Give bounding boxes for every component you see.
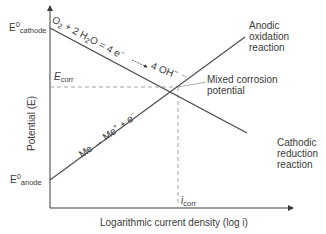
- oh-leader: [182, 75, 187, 77]
- equation-arrow: [132, 60, 147, 67]
- y-axis-label: Potential (E): [26, 84, 37, 164]
- e-anode-sub: anode: [21, 178, 42, 187]
- x-axis-label: Logarithmic current density (log i): [100, 217, 248, 228]
- e-cathode-symbol: E: [9, 22, 16, 33]
- e-cathode-marker: E0cathode: [9, 19, 47, 36]
- anodic-label-line-2: oxidation: [249, 31, 289, 42]
- anodic-line: [50, 37, 245, 180]
- mixed-label-line-2: potential: [207, 85, 278, 96]
- mixed-potential-label: Mixed corrosion potential: [207, 74, 278, 96]
- cathodic-label-line-3: reaction: [277, 159, 318, 170]
- e-cathode-sub: cathode: [20, 26, 47, 35]
- cathodic-label: Cathodic reduction reaction: [277, 137, 318, 170]
- e-anode-symbol: E: [10, 174, 17, 185]
- anodic-label-line-1: Anodic: [249, 20, 289, 31]
- anodic-label-line-3: reaction: [249, 42, 289, 53]
- e-corr-marker: Ecorr: [54, 71, 74, 85]
- e-corr-symbol: E: [54, 71, 61, 82]
- mixed-label-line-1: Mixed corrosion: [207, 74, 278, 85]
- e-corr-sub: corr: [61, 75, 74, 84]
- anodic-label: Anodic oxidation reaction: [249, 20, 289, 53]
- i-corr-sub: corr: [183, 199, 196, 208]
- i-corr-marker: icorr: [181, 195, 196, 209]
- cathodic-label-line-1: Cathodic: [277, 137, 318, 148]
- cathodic-label-line-2: reduction: [277, 148, 318, 159]
- e-anode-marker: E0anode: [10, 171, 42, 188]
